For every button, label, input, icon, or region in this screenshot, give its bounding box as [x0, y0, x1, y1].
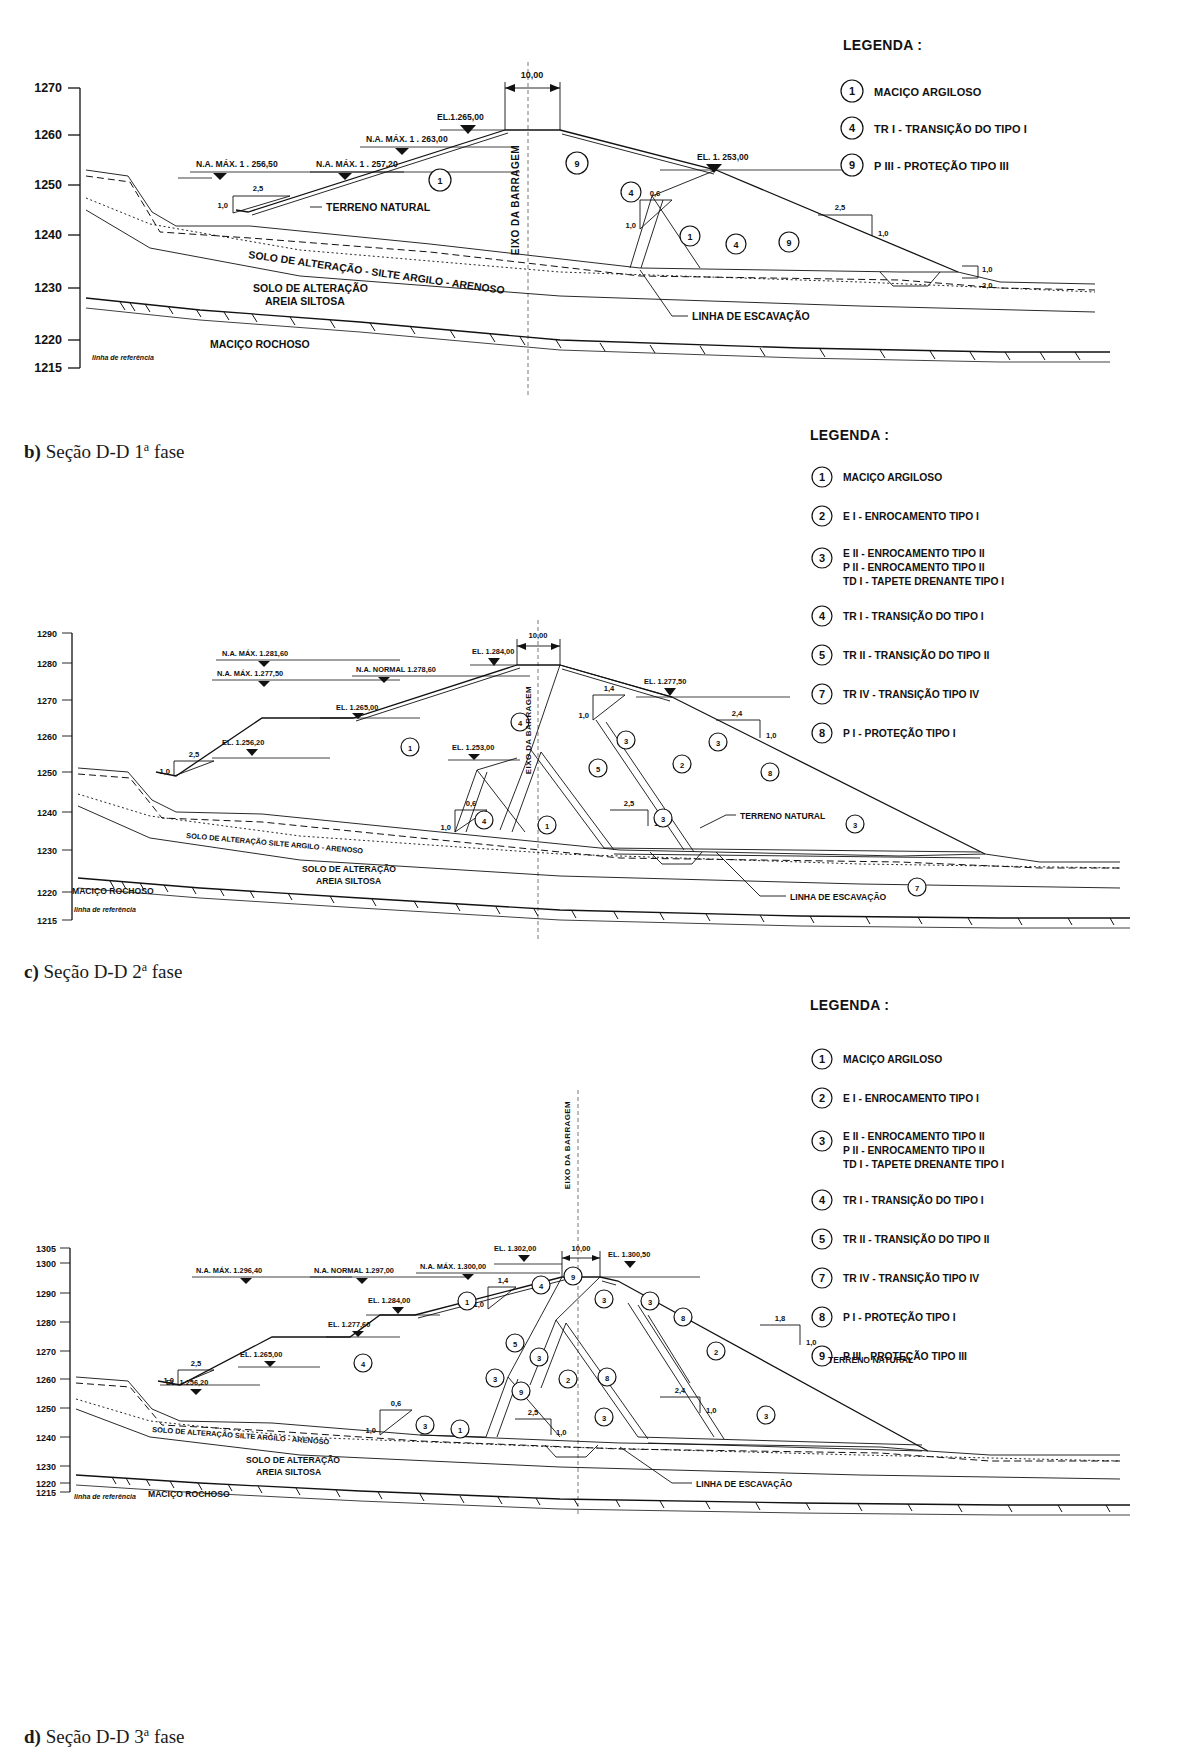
elevation-label: EL. 1.302,00	[494, 1244, 536, 1253]
axis-tick-label: 1215	[34, 361, 62, 375]
solo-alteracao-2-label: SOLO DE ALTERAÇÃO	[253, 282, 368, 294]
slope-h-label: 2,5	[835, 203, 846, 212]
legend-bullet-number: 7	[819, 1272, 825, 1284]
zone-number: 1	[687, 232, 692, 242]
zone-number: 3	[764, 1412, 768, 1421]
legend-item-label: E I - ENROCAMENTO TIPO I	[843, 1093, 979, 1104]
axis-tick-label: 1270	[37, 696, 57, 706]
elevation-label: EL. 1.300,50	[608, 1250, 650, 1259]
water-level-label: N.A. MÁX. 1 . 263,00	[366, 134, 448, 144]
legend-item-label: P I - PROTEÇÃO TIPO I	[843, 1311, 956, 1323]
legend-bullet-number: 8	[819, 1311, 825, 1323]
reference-line-label: linha de referência	[74, 1493, 136, 1500]
zone-number: 3	[602, 1296, 606, 1305]
legend-item-label: P III - PROTEÇÃO TIPO III	[874, 160, 1009, 172]
slope-v-label: 1,0	[878, 229, 889, 238]
linha-escavacao-label: LINHA DE ESCAVAÇÃO	[692, 310, 810, 322]
zone-number: 3	[537, 1354, 541, 1363]
legend-bullet-number: 3	[819, 1135, 825, 1147]
zone-number: 3	[661, 815, 665, 824]
terreno-natural-label: TERRENO NATURAL	[740, 811, 825, 821]
legend-item-label: P II - ENROCAMENTO TIPO II	[843, 1145, 985, 1156]
zone-number: 3	[716, 739, 720, 748]
legend-bullet-number: 2	[819, 510, 825, 522]
elevation-axis-phase2: 1290 1280 1270 1260 1250 1240 1230 1220 …	[37, 629, 72, 926]
water-level-label: N.A. MÁX. 1.281,60	[222, 649, 288, 658]
legend-bullet-number: 9	[849, 159, 855, 171]
legend-bullet-number: 4	[849, 122, 856, 134]
legend-item-label: E II - ENROCAMENTO TIPO II	[843, 1131, 985, 1142]
legend-bullet-number: 2	[819, 1092, 825, 1104]
axis-tick-label: 1250	[37, 768, 57, 778]
elevation-label: EL. 1.265,00	[240, 1350, 282, 1359]
zone-callouts-phase2: 1 4 5 3 3 2 8 4 1 3 3 7	[401, 713, 926, 896]
elevation-label: EL. 1.256,20	[222, 738, 264, 747]
crest-width-dimension-phase2: 10,00	[517, 631, 560, 665]
slope-v-label: 1,0	[706, 1406, 717, 1415]
crest-width-label: 10,00	[571, 1244, 590, 1253]
water-level-label: N.A. MÁX. 1.277,50	[217, 669, 283, 678]
slope-h-label: 0,6	[466, 799, 477, 808]
slope-v-label: 1,0	[217, 201, 228, 210]
caption-suffix: fase	[147, 961, 182, 982]
elevation-label: EL. 1.265,00	[336, 703, 378, 712]
water-level-label: N.A. MÁX. 1.300,00	[420, 1262, 486, 1271]
legend-item-label: MACIÇO ARGILOSO	[843, 1054, 942, 1065]
legend-bullet-number: 5	[819, 649, 825, 661]
slope-v-label: 1,0	[365, 1426, 376, 1435]
drawing-canvas-phase3: LEGENDA : 1 MACIÇO ARGILOSO 2 E I - ENRO…	[0, 985, 1191, 1725]
slope-v-label: 2,0	[982, 281, 993, 290]
elevation-label: EL. 1. 253,00	[697, 152, 749, 162]
zone-number: 3	[853, 821, 857, 830]
slope-h-label: 2,5	[624, 799, 635, 808]
axis-tick-label: 1305	[36, 1244, 56, 1254]
figure-section-dd-phase1: 1270 1260 1250 1240 1230 1220 1215 10,00	[0, 0, 1191, 430]
linha-escavacao-label: LINHA DE ESCAVAÇÃO	[790, 892, 887, 902]
slope-h-label: 0,6	[391, 1399, 402, 1408]
axis-tick-label: 1215	[37, 916, 57, 926]
legend-title: LEGENDA :	[810, 997, 889, 1013]
legend-item-label: TD I - TAPETE DRENANTE TIPO I	[843, 1159, 1004, 1170]
legend-bullet-number: 1	[819, 471, 825, 483]
figure-section-dd-phase2: LEGENDA : 1 MACIÇO ARGILOSO 2 E I - ENRO…	[0, 420, 1191, 950]
caption-marker: c)	[24, 961, 39, 982]
legend-bullet-number: 4	[819, 1194, 826, 1206]
legend-title: LEGENDA :	[810, 427, 889, 443]
terreno-natural-label: TERRENO NATURAL	[326, 201, 431, 213]
zone-number: 2	[714, 1348, 718, 1357]
water-level-label: N.A. NORMAL 1.278,60	[356, 665, 436, 674]
caption-phase2: c) Seção D-D 2a fase	[24, 960, 182, 983]
zone-number: 7	[915, 884, 919, 893]
legend-item-label: TR IV - TRANSIÇÃO TIPO IV	[843, 1272, 979, 1284]
axis-tick-label: 1300	[36, 1259, 56, 1269]
linha-escavacao-label: LINHA DE ESCAVAÇÃO	[696, 1479, 793, 1489]
slope-h-label: 2,5	[191, 1359, 202, 1368]
slope-v-label: 1,0	[159, 767, 170, 776]
caption-suffix: fase	[149, 1726, 184, 1747]
slope-h-label: 0,6	[650, 189, 661, 198]
slope-v-label: 1,0	[440, 823, 451, 832]
zone-number: 2	[680, 761, 684, 770]
axis-tick-label: 1250	[34, 178, 62, 192]
zone-number: 3	[493, 1375, 497, 1384]
zone-number: 4	[628, 188, 633, 198]
caption-text: Seção D-D 2	[44, 961, 142, 982]
caption-text: Seção D-D 3	[46, 1726, 144, 1747]
slope-h-label: 2,4	[732, 709, 743, 718]
terreno-natural-label: TERRENO NATURAL	[828, 1355, 913, 1365]
legend-bullet-number: 3	[819, 552, 825, 564]
slope-v-label: 1,0	[625, 221, 636, 230]
elevation-label: EL. 1.284,00	[472, 647, 514, 656]
axis-tick-label: 1270	[34, 81, 62, 95]
legend-bullet-number: 9	[819, 1350, 825, 1362]
elevation-label: EL. 1.277,60	[328, 1320, 370, 1329]
slope-h-label: 1,8	[775, 1314, 786, 1323]
areia-siltosa-label: AREIA SILTOSA	[265, 295, 345, 307]
caption-phase3: d) Seção D-D 3a fase	[24, 1725, 184, 1748]
figure-section-dd-phase3: LEGENDA : 1 MACIÇO ARGILOSO 2 E I - ENRO…	[0, 985, 1191, 1725]
legend-bullet-number: 7	[819, 688, 825, 700]
axis-tick-label: 1260	[37, 732, 57, 742]
zone-number: 9	[786, 238, 791, 248]
solo-alteracao-2-label: SOLO DE ALTERAÇÃO	[302, 864, 396, 874]
axis-tick-label: 1215	[36, 1488, 56, 1498]
